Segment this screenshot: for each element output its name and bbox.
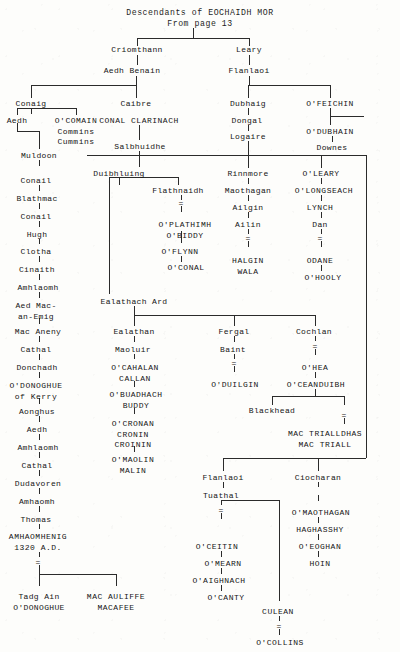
person-name-line: Conail bbox=[21, 212, 52, 223]
connector-bottom-drop-r bbox=[318, 458, 319, 471]
person-name-line: HAGHASSHY bbox=[296, 525, 344, 536]
person-name-line: Thomas bbox=[21, 515, 52, 526]
person-name-line: Blackhead bbox=[249, 406, 295, 417]
person-node-amhaomhenig: AMHAOMHENIG1320 A.D. bbox=[9, 532, 67, 553]
person-name-line: Fergal bbox=[219, 327, 250, 338]
connector-bl-drop-r bbox=[116, 574, 117, 586]
connector-aedhb-drop-l bbox=[31, 85, 32, 98]
person-name-line: Maoluir bbox=[115, 345, 151, 356]
person-node-tadg-ain: Tadg AinO'DONOGHUE bbox=[13, 592, 65, 613]
person-name-line: Dongal bbox=[232, 116, 263, 127]
person-node-cinaith: Cinaith bbox=[19, 265, 55, 276]
person-node-aedh-left: Aedh bbox=[7, 116, 28, 127]
connector-ealath-drop-c bbox=[315, 315, 316, 326]
marriage-mark-eq-dan: = bbox=[318, 235, 323, 243]
person-node-ailgin: Ailgin bbox=[233, 203, 264, 214]
person-name-line: Ciocharan bbox=[295, 473, 341, 484]
person-node-mac-auliffe: MAC AULIFFEMACAFEE bbox=[87, 592, 145, 613]
connector-bottom-rail bbox=[223, 458, 366, 459]
connector-conal-salb bbox=[139, 125, 140, 140]
connector-odubh-down bbox=[330, 116, 331, 125]
person-node-leary: Leary bbox=[236, 45, 262, 56]
person-name-line: MACAFEE bbox=[87, 603, 145, 614]
connector-logaire-drop-b bbox=[321, 155, 322, 168]
marriage-mark-eq-baint: = bbox=[232, 360, 237, 368]
person-name-line: O'CONAL bbox=[167, 263, 204, 274]
connector-root-bar bbox=[137, 38, 249, 39]
person-node-ocanty: O'CANTY bbox=[207, 593, 244, 604]
person-name-line: O'MEARN bbox=[204, 559, 241, 570]
person-name-line: Muldoon bbox=[21, 151, 57, 162]
person-name-line: O'CAHALAN bbox=[111, 363, 159, 374]
person-node-flanlaoi-top: Flanlaoi bbox=[228, 66, 269, 77]
person-name-line: Amhaomh bbox=[19, 497, 55, 508]
person-name-line: Conail bbox=[21, 176, 52, 187]
person-node-ofeichin: O'FEICHIN bbox=[306, 99, 354, 110]
person-node-dudavoren: Dudavoren bbox=[15, 479, 61, 490]
person-name-line: MAC TRIALLDHAS bbox=[288, 429, 362, 440]
person-name-line: O'LEARY bbox=[302, 169, 339, 180]
person-name-line: Amhlaomh bbox=[17, 443, 58, 454]
person-name-line: O'BIDDY bbox=[158, 231, 211, 242]
person-node-conail-1: Conail bbox=[21, 176, 52, 187]
person-name-line: Mac Aneny bbox=[15, 327, 61, 338]
connector-flan-stem bbox=[249, 76, 250, 85]
person-node-odubhain: O'DUBHAIN bbox=[306, 127, 354, 138]
person-name-line: Dudavoren bbox=[15, 479, 61, 490]
person-node-olongseach: O'LONGSEACH bbox=[295, 186, 353, 197]
person-node-mactrialldhas: MAC TRIALLDHASMAC TRIALL bbox=[288, 429, 362, 450]
connector-logaire-bar bbox=[87, 155, 366, 156]
person-node-lynch: LYNCH bbox=[307, 203, 334, 214]
person-name-line: Cummins bbox=[55, 137, 97, 148]
person-name-line: O'DONOGHUE bbox=[9, 381, 62, 392]
person-name-line: O'PLATHIMH bbox=[158, 220, 211, 231]
person-node-amhlaomh-2: Amhlaomh bbox=[17, 443, 58, 454]
person-name-line: Downes bbox=[317, 143, 348, 154]
person-node-conail-2: Conail bbox=[21, 212, 52, 223]
person-name-line: O'EOGHAN bbox=[299, 542, 341, 553]
person-node-oleary: O'LEARY bbox=[302, 169, 339, 180]
person-node-dongal: Dongal bbox=[232, 116, 263, 127]
person-node-ohooly: O'HOOLY bbox=[304, 273, 341, 284]
person-name-line: Rinnmore bbox=[227, 169, 268, 180]
person-name-line: Aedh Benain bbox=[104, 66, 161, 77]
paper-texture bbox=[0, 0, 400, 652]
connector-ealath-drop-a bbox=[134, 315, 135, 326]
genealogy-chart: Descendants of EOCHAIDH MOR From page 13… bbox=[0, 0, 400, 652]
person-node-muldoon: Muldoon bbox=[21, 151, 57, 162]
connector-salb-duibh bbox=[139, 151, 140, 167]
person-name-line: Aed Mac- bbox=[15, 301, 56, 312]
person-name-line: O'HOOLY bbox=[304, 273, 341, 284]
person-name-line: CONAL CLARINACH bbox=[99, 116, 179, 127]
connector-aedhb-bar bbox=[31, 85, 137, 86]
connector-oceand-drop-l bbox=[272, 396, 273, 405]
chart-subtitle: From page 13 bbox=[0, 19, 400, 28]
chart-title: Descendants of EOCHAIDH MOR bbox=[0, 8, 400, 17]
person-name-line: MALIN bbox=[112, 466, 154, 477]
person-node-ealathan: Ealathan bbox=[113, 327, 154, 338]
person-node-flanlaoi-bot: Flanlaoi bbox=[202, 473, 243, 484]
person-node-maothagan: Maothagan bbox=[225, 186, 271, 197]
person-node-dubhaig: Dubhaig bbox=[230, 99, 266, 110]
person-node-oflathimh: O'PLATHIMHO'BIDDY bbox=[158, 220, 211, 241]
person-node-maoluir: Maoluir bbox=[115, 345, 151, 356]
person-name-line: Maothagan bbox=[225, 186, 271, 197]
person-node-aed-mac: Aed Mac-an-Emig bbox=[15, 301, 56, 322]
person-name-line: MAC TRIALL bbox=[288, 440, 362, 451]
person-name-line: Leary bbox=[236, 45, 262, 56]
person-node-culean: CULEAN bbox=[262, 607, 294, 618]
person-name-line: LYNCH bbox=[307, 203, 334, 214]
person-name-line: CRONIN bbox=[112, 430, 154, 441]
connector-logaire-stem bbox=[248, 141, 249, 155]
person-node-downes: Downes bbox=[317, 143, 348, 154]
person-node-ocomain: O'COMAINComminsCummins bbox=[55, 116, 97, 148]
person-name-line: Dan bbox=[312, 220, 327, 231]
connector-aedhb-stem bbox=[136, 76, 137, 85]
person-node-amhaomh: Amhaomh bbox=[19, 497, 55, 508]
person-name-line: 1320 A.D. bbox=[9, 543, 67, 554]
person-node-mac-aneny: Mac Aneny bbox=[15, 327, 61, 338]
person-node-odonoghue-k: O'DONOGHUEof Kerry bbox=[9, 381, 62, 402]
connector-rightrail bbox=[366, 155, 367, 458]
person-node-oconal: O'CONAL bbox=[167, 263, 204, 274]
person-node-aedh-benain: Aedh Benain bbox=[104, 66, 161, 77]
